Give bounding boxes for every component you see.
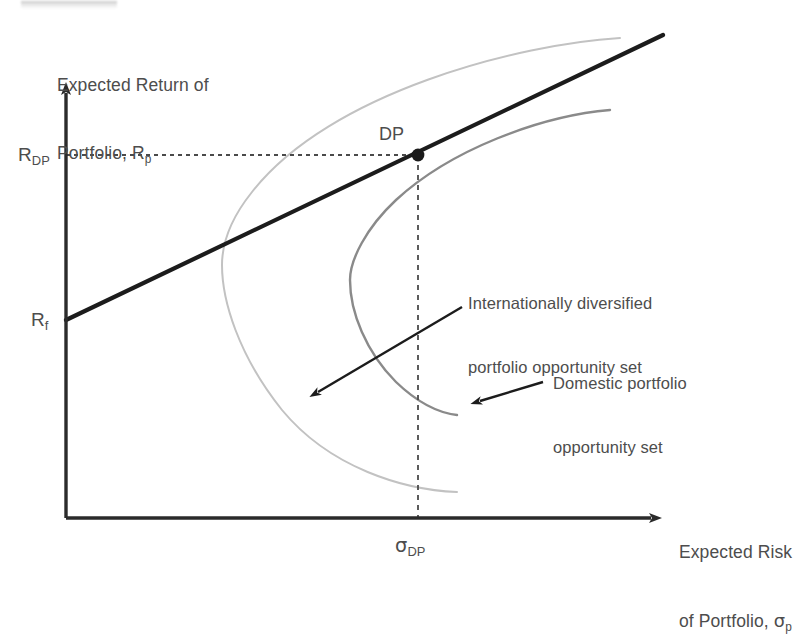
y-axis-label-line1: Expected Return of <box>57 74 209 97</box>
annotation-domestic-line1: Domestic portfolio <box>553 373 687 394</box>
y-axis-label-line2: Portfolio, Rp <box>57 142 209 165</box>
x-axis-label: Expected Risk of Portfolio, σp <box>679 495 792 638</box>
x-axis-label-line1: Expected Risk <box>679 541 792 564</box>
tangency-point-dp <box>412 149 425 162</box>
annotation-domestic-text: Domestic portfolio opportunity set <box>553 330 687 502</box>
y-tick-label-rf: Rf <box>31 308 49 333</box>
y-axis-label: Expected Return of Portfolio, Rp <box>57 28 209 210</box>
annotation-international-line1: Internationally diversified <box>468 293 652 314</box>
x-tick-label-sigmadp: σDP <box>395 533 426 559</box>
y-tick-label-rdp: RDP <box>18 143 50 168</box>
annotation-domestic-line2: opportunity set <box>553 437 687 458</box>
point-label-dp: DP <box>379 123 404 146</box>
annotation-arrow-international <box>318 307 462 392</box>
x-axis-label-line2: of Portfolio, σp <box>679 609 792 633</box>
